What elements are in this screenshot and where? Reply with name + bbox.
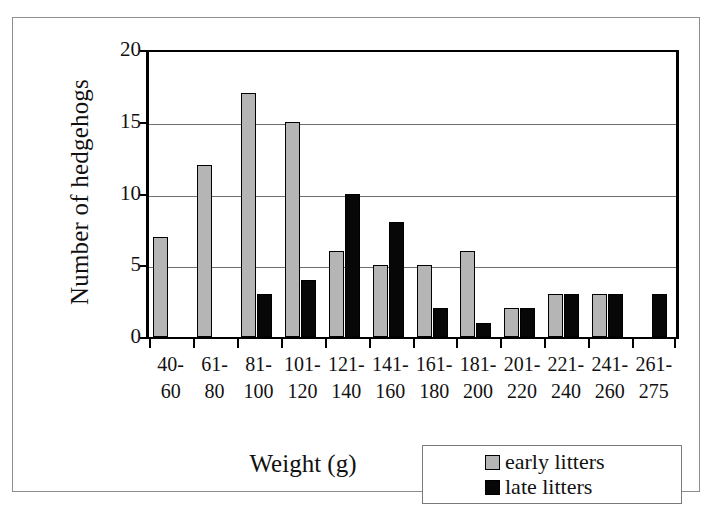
bar-group bbox=[500, 50, 544, 337]
bar-late-litters bbox=[564, 294, 579, 337]
x-axis-tick-mark bbox=[237, 339, 239, 348]
legend-item-late-litters: late litters bbox=[485, 476, 592, 498]
x-axis-tick-mark bbox=[544, 339, 546, 348]
bar-early-litters bbox=[548, 294, 563, 337]
x-axis-tick-mark bbox=[369, 339, 371, 348]
x-axis-tick-mark bbox=[588, 339, 590, 348]
bar-early-litters bbox=[504, 308, 519, 337]
y-axis-tick-mark bbox=[140, 50, 148, 52]
legend-item-early-litters: early litters bbox=[485, 451, 605, 473]
bar-group bbox=[193, 50, 237, 337]
x-axis-tick-mark bbox=[632, 339, 634, 348]
bar-early-litters bbox=[592, 294, 607, 337]
bar-late-litters bbox=[301, 280, 316, 337]
bar-early-litters bbox=[373, 265, 388, 337]
bar-group bbox=[456, 50, 500, 337]
x-axis-tick-mark bbox=[674, 339, 676, 348]
bar-group bbox=[281, 50, 325, 337]
x-axis-title: Weight (g) bbox=[173, 450, 433, 478]
bar-late-litters bbox=[652, 294, 667, 337]
x-axis-tick-mark bbox=[193, 339, 195, 348]
chart-legend: early litters late litters bbox=[422, 445, 682, 504]
bar-group bbox=[325, 50, 369, 337]
y-axis-tick-labels: 05101520 bbox=[101, 50, 141, 339]
y-axis-tick-label: 15 bbox=[107, 111, 141, 132]
bar-early-litters bbox=[153, 237, 168, 337]
y-axis-tick-label: 5 bbox=[107, 254, 141, 275]
y-axis-tick-mark bbox=[140, 265, 148, 267]
legend-swatch-early-litters-icon bbox=[485, 455, 500, 470]
x-axis-tick-mark bbox=[413, 339, 415, 348]
y-axis-tick-label: 20 bbox=[107, 39, 141, 60]
bar-group bbox=[413, 50, 457, 337]
figure-frame: Number of hedgehogs 05101520 40-6061-808… bbox=[12, 17, 700, 492]
bars-layer bbox=[149, 50, 676, 337]
x-axis-tick-mark bbox=[456, 339, 458, 348]
x-axis-tick-labels: 40-6061-8081-100101-120121-140141-160161… bbox=[133, 351, 693, 413]
x-axis-tick-mark bbox=[325, 339, 327, 348]
bar-early-litters bbox=[241, 93, 256, 337]
legend-label-late-litters: late litters bbox=[505, 476, 592, 498]
bar-group bbox=[149, 50, 193, 337]
y-axis-tick-label: 0 bbox=[107, 326, 141, 347]
bar-group bbox=[544, 50, 588, 337]
bar-late-litters bbox=[476, 323, 491, 337]
x-axis-tick-label: 261-275 bbox=[627, 351, 681, 405]
y-axis-tick-label: 10 bbox=[107, 183, 141, 204]
bar-group bbox=[237, 50, 281, 337]
bar-early-litters bbox=[460, 251, 475, 337]
bar-late-litters bbox=[257, 294, 272, 337]
bar-late-litters bbox=[608, 294, 623, 337]
y-axis-tick-mark bbox=[140, 122, 148, 124]
bar-early-litters bbox=[197, 165, 212, 337]
bar-early-litters bbox=[285, 122, 300, 337]
bar-late-litters bbox=[433, 308, 448, 337]
legend-label-early-litters: early litters bbox=[505, 451, 605, 473]
bar-group bbox=[588, 50, 632, 337]
y-axis-title: Number of hedgehogs bbox=[66, 47, 94, 337]
x-axis-tick-marks bbox=[149, 339, 676, 348]
bar-late-litters bbox=[345, 194, 360, 338]
y-axis-tick-mark bbox=[140, 337, 148, 339]
x-axis-tick-mark bbox=[149, 339, 151, 348]
bar-group bbox=[632, 50, 676, 337]
legend-swatch-late-litters-icon bbox=[485, 480, 500, 495]
bar-group bbox=[369, 50, 413, 337]
x-axis-tick-mark bbox=[281, 339, 283, 348]
bar-early-litters bbox=[329, 251, 344, 337]
y-axis-tick-mark bbox=[140, 194, 148, 196]
bar-late-litters bbox=[389, 222, 404, 337]
bar-early-litters bbox=[417, 265, 432, 337]
x-axis-tick-mark bbox=[500, 339, 502, 348]
bar-late-litters bbox=[520, 308, 535, 337]
